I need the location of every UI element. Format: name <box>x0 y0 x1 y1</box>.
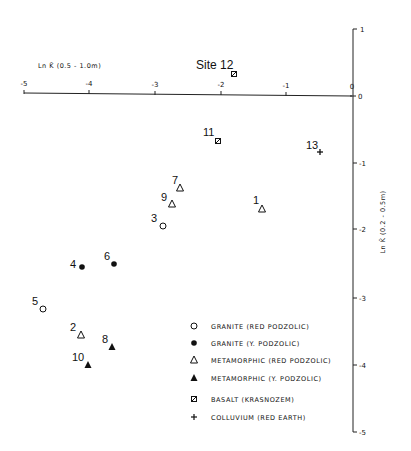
legend-label: METAMORPHIC (RED PODZOLIC) <box>211 357 331 365</box>
x-tick-label: -4 <box>86 80 94 88</box>
x-axis-title: Ln K̄ (0.5 - 1.0m) <box>38 62 101 70</box>
y-tick-label: -2 <box>359 226 366 234</box>
point-label-10: 10 <box>72 351 84 363</box>
hatched-square-icon <box>232 72 237 77</box>
y-tick-label: 1 <box>360 26 364 34</box>
point-label-11: 11 <box>203 126 214 138</box>
y-tick-label: -5 <box>359 429 366 437</box>
filled-circle-icon <box>191 340 197 346</box>
data-points: Site 12 11 13 7 9 1 3 4 <box>32 58 323 368</box>
legend-label: GRANITE (Y. PODZOLIC) <box>211 340 300 348</box>
point-label-4: 4 <box>70 258 76 270</box>
legend-label: GRANITE (RED PODZOLIC) <box>211 323 309 331</box>
plus-icon <box>191 414 197 420</box>
legend-label: COLLUVIUM (RED EARTH) <box>211 414 306 422</box>
filled-triangle-icon <box>85 361 92 368</box>
x-axis: -5 -4 -3 -2 -1 0 Ln K̄ (0.5 - 1.0m) <box>21 62 355 96</box>
open-triangle-icon <box>78 331 85 338</box>
y-tick-label: 0 <box>358 93 362 101</box>
point-label-3: 3 <box>151 212 157 224</box>
filled-triangle-icon <box>109 343 116 350</box>
legend-label: METAMORPHIC (Y. PODZOLIC) <box>211 375 322 383</box>
x-tick-label: 0 <box>350 83 354 91</box>
y-axis-title: Ln K̄ (0.2 - 0.5m) <box>379 190 387 253</box>
filled-triangle-icon <box>191 374 198 381</box>
point-label-1: 1 <box>253 194 259 206</box>
open-triangle-icon <box>259 205 266 212</box>
open-triangle-icon <box>169 200 176 207</box>
y-axis: 1 0 -1 -2 -3 -4 -5 Ln K̄ (0.2 - 0.5m) <box>350 26 387 437</box>
point-label-13: 13 <box>306 139 318 151</box>
open-circle-icon <box>191 323 197 329</box>
x-tick-label: -2 <box>218 81 225 89</box>
point-label-5: 5 <box>32 295 38 307</box>
x-tick-label: -3 <box>152 81 159 89</box>
hatched-square-icon <box>216 139 221 144</box>
open-circle-icon <box>160 223 166 229</box>
x-tick-label: -5 <box>21 80 28 88</box>
site-12-label: Site 12 <box>196 58 234 72</box>
y-tick-label: -1 <box>359 160 366 168</box>
legend-label: BASALT (KRASNOZEM) <box>211 396 294 404</box>
y-tick-label: -3 <box>359 295 366 303</box>
filled-circle-icon <box>79 264 85 270</box>
point-label-6: 6 <box>104 250 110 262</box>
y-tick-label: -4 <box>359 362 367 370</box>
hatched-square-icon <box>192 397 197 402</box>
open-triangle-icon <box>191 356 198 363</box>
point-label-2: 2 <box>70 321 76 333</box>
legend: GRANITE (RED PODZOLIC) GRANITE (Y. PODZO… <box>191 323 332 422</box>
filled-circle-icon <box>111 261 117 267</box>
scatter-chart: -5 -4 -3 -2 -1 0 Ln K̄ (0.5 - 1.0m) 1 0 … <box>0 0 411 451</box>
point-label-8: 8 <box>102 333 108 345</box>
point-label-7: 7 <box>172 174 178 186</box>
point-label-9: 9 <box>161 191 167 203</box>
x-tick-label: -1 <box>283 82 290 90</box>
open-circle-icon <box>40 306 46 312</box>
